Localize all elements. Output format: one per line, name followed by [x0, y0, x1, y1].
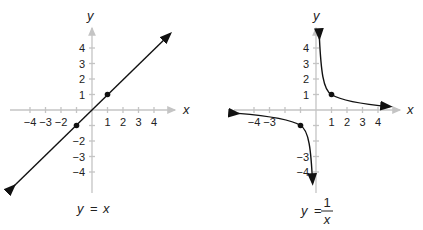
svg-text:−4: −4 — [72, 166, 85, 178]
svg-text:−2: −2 — [55, 116, 68, 128]
svg-text:=: = — [90, 201, 98, 216]
svg-text:4: 4 — [151, 116, 157, 128]
svg-text:−4: −4 — [24, 116, 37, 128]
svg-text:x: x — [102, 201, 110, 216]
point-1-1 — [105, 92, 111, 98]
svg-text:1: 1 — [303, 89, 309, 101]
svg-text:y: y — [300, 203, 309, 218]
svg-text:4: 4 — [79, 42, 85, 54]
point-neg1-neg1 — [298, 123, 304, 129]
svg-text:y: y — [76, 201, 85, 216]
graph-reciprocal: y x −4 −3 1 2 3 4 4 3 2 1 −3 −4 y = 1 — [234, 8, 414, 227]
point-neg1-neg1 — [74, 123, 80, 129]
x-axis-label: x — [182, 102, 190, 117]
axes — [234, 28, 400, 193]
svg-text:2: 2 — [344, 116, 350, 128]
svg-text:2: 2 — [79, 73, 85, 85]
svg-text:−3: −3 — [72, 151, 85, 163]
svg-text:1: 1 — [323, 195, 330, 210]
svg-text:=: = — [314, 203, 322, 218]
y-axis-label: y — [312, 8, 321, 23]
x-tick-labels: −4 −3 1 2 3 4 — [248, 116, 381, 128]
svg-text:−3: −3 — [296, 151, 309, 163]
figure: y x −4 −3 −2 1 2 3 4 4 3 2 1 −2 −3 −4 y … — [0, 0, 423, 230]
svg-text:1: 1 — [104, 116, 110, 128]
caption-identity: y = x — [76, 201, 110, 216]
svg-text:2: 2 — [120, 116, 126, 128]
graph-identity: y x −4 −3 −2 1 2 3 4 4 3 2 1 −2 −3 −4 y … — [10, 8, 190, 216]
svg-text:4: 4 — [303, 42, 309, 54]
svg-text:4: 4 — [375, 116, 381, 128]
svg-text:3: 3 — [303, 58, 309, 70]
svg-text:3: 3 — [359, 116, 365, 128]
svg-text:−3: −3 — [39, 116, 52, 128]
x-axis-label: x — [406, 102, 414, 117]
svg-text:−2: −2 — [72, 135, 85, 147]
x-tick-labels: −4 −3 −2 1 2 3 4 — [24, 116, 157, 128]
svg-text:3: 3 — [135, 116, 141, 128]
svg-text:1: 1 — [79, 89, 85, 101]
svg-text:−4: −4 — [248, 116, 261, 128]
point-1-1 — [329, 92, 335, 98]
svg-text:1: 1 — [328, 116, 334, 128]
y-axis-label: y — [86, 8, 95, 23]
svg-text:−4: −4 — [296, 166, 309, 178]
svg-text:x: x — [323, 212, 331, 227]
svg-text:3: 3 — [79, 58, 85, 70]
caption-reciprocal: y = 1 x — [300, 195, 333, 227]
svg-text:2: 2 — [303, 73, 309, 85]
